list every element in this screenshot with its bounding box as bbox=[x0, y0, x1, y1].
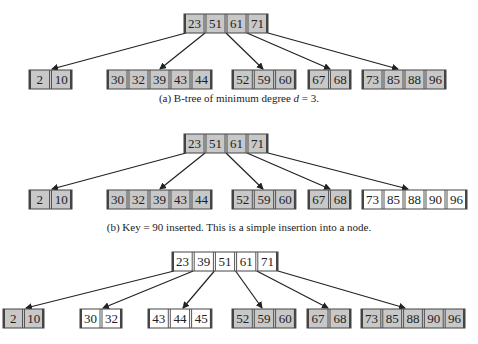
node-key: 44 bbox=[195, 192, 209, 207]
node-key: 88 bbox=[407, 311, 420, 326]
child-pointer-arrow bbox=[226, 153, 263, 189]
node-key: 60 bbox=[279, 192, 292, 207]
node-key: 85 bbox=[386, 311, 399, 326]
node-key: 10 bbox=[55, 72, 68, 87]
leaf-node-b-3: 6768 bbox=[308, 190, 351, 209]
leaf-node-c-1: 3032 bbox=[80, 309, 122, 328]
node-key: 61 bbox=[230, 16, 243, 31]
node-key: 68 bbox=[334, 311, 347, 326]
node-key: 71 bbox=[251, 16, 264, 31]
node-key: 23 bbox=[188, 16, 201, 31]
node-key: 2 bbox=[37, 192, 44, 207]
node-key: 59 bbox=[257, 311, 270, 326]
btree-diagram-canvas: 235161712103032394344525960676873858896 … bbox=[0, 0, 478, 344]
node-key: 61 bbox=[240, 254, 253, 269]
leaf-node-a-2: 525960 bbox=[232, 70, 296, 89]
leaf-node-b-2: 525960 bbox=[232, 190, 296, 209]
node-key: 51 bbox=[219, 254, 232, 269]
leaf-node-b-1: 3032394344 bbox=[107, 190, 212, 209]
child-pointer-arrow bbox=[278, 271, 405, 308]
node-key: 32 bbox=[132, 192, 145, 207]
caption-a-text-2: = 3. bbox=[299, 92, 319, 104]
node-key: 2 bbox=[10, 311, 17, 326]
node-key: 39 bbox=[197, 254, 210, 269]
btree-diagram-c: 2339516171210303243444552596067687385889… bbox=[3, 252, 465, 328]
node-key: 59 bbox=[257, 192, 270, 207]
node-key: 30 bbox=[111, 72, 124, 87]
node-key: 71 bbox=[251, 136, 264, 151]
caption-b: (b) Key = 90 inserted. This is a simple … bbox=[0, 221, 478, 233]
leaf-node-a-0: 210 bbox=[29, 70, 72, 89]
node-key: 52 bbox=[236, 311, 249, 326]
root-node-b: 23516171 bbox=[184, 134, 268, 153]
node-key: 44 bbox=[195, 72, 209, 87]
child-pointer-arrow bbox=[183, 271, 214, 308]
node-key: 73 bbox=[366, 72, 379, 87]
leaf-node-b-4: 7385889096 bbox=[362, 190, 467, 209]
root-node-c: 2339516171 bbox=[172, 252, 278, 271]
node-key: 10 bbox=[55, 192, 68, 207]
node-key: 23 bbox=[188, 136, 201, 151]
leaf-node-b-0: 210 bbox=[29, 190, 72, 209]
leaf-node-a-1: 3032394344 bbox=[107, 70, 212, 89]
child-pointer-arrow bbox=[103, 271, 193, 308]
leaf-node-a-4: 73858896 bbox=[362, 70, 446, 89]
caption-b-text: (b) Key = 90 inserted. This is a simple … bbox=[107, 221, 371, 233]
node-key: 2 bbox=[37, 72, 44, 87]
node-key: 85 bbox=[387, 192, 400, 207]
node-key: 96 bbox=[450, 192, 464, 207]
node-key: 51 bbox=[209, 16, 222, 31]
node-key: 39 bbox=[153, 192, 166, 207]
node-key: 59 bbox=[257, 72, 270, 87]
node-key: 61 bbox=[230, 136, 243, 151]
node-key: 45 bbox=[195, 311, 208, 326]
node-key: 32 bbox=[132, 72, 145, 87]
btree-diagram-b: 2351617121030323943445259606768738588909… bbox=[29, 134, 467, 209]
node-key: 90 bbox=[429, 192, 442, 207]
child-pointer-arrow bbox=[26, 271, 174, 308]
child-pointer-arrow bbox=[236, 271, 262, 308]
child-pointer-arrow bbox=[226, 33, 263, 69]
node-key: 96 bbox=[448, 311, 462, 326]
node-key: 68 bbox=[334, 192, 347, 207]
node-key: 52 bbox=[236, 192, 249, 207]
leaf-node-a-3: 6768 bbox=[308, 70, 351, 89]
node-key: 90 bbox=[427, 311, 440, 326]
node-key: 60 bbox=[279, 72, 292, 87]
node-key: 73 bbox=[366, 192, 379, 207]
node-key: 67 bbox=[312, 311, 326, 326]
leaf-node-c-4: 6768 bbox=[307, 309, 351, 328]
node-key: 43 bbox=[174, 72, 187, 87]
caption-a-text-1: (a) B-tree of minimum degree bbox=[159, 92, 294, 104]
node-key: 39 bbox=[153, 72, 166, 87]
leaf-node-c-5: 7385889096 bbox=[361, 309, 465, 328]
node-key: 71 bbox=[261, 254, 274, 269]
leaf-node-c-2: 434445 bbox=[148, 309, 212, 328]
node-key: 32 bbox=[105, 311, 118, 326]
caption-a: (a) B-tree of minimum degree d = 3. bbox=[0, 92, 478, 104]
node-key: 43 bbox=[152, 311, 165, 326]
node-key: 30 bbox=[111, 192, 124, 207]
root-node-a: 23516171 bbox=[184, 14, 268, 33]
leaf-node-c-3: 525960 bbox=[232, 309, 296, 328]
node-key: 96 bbox=[429, 72, 443, 87]
node-key: 44 bbox=[173, 311, 187, 326]
node-key: 30 bbox=[84, 311, 97, 326]
node-key: 73 bbox=[365, 311, 378, 326]
node-key: 10 bbox=[27, 311, 40, 326]
node-key: 43 bbox=[174, 192, 187, 207]
node-key: 85 bbox=[387, 72, 400, 87]
child-pointer-arrow bbox=[257, 271, 328, 308]
node-key: 67 bbox=[312, 72, 326, 87]
node-key: 52 bbox=[236, 72, 249, 87]
node-key: 88 bbox=[408, 192, 421, 207]
node-key: 51 bbox=[209, 136, 222, 151]
node-key: 60 bbox=[279, 311, 292, 326]
node-key: 68 bbox=[334, 72, 347, 87]
leaf-node-c-0: 210 bbox=[3, 309, 44, 328]
btree-diagram-a: 235161712103032394344525960676873858896 bbox=[29, 14, 446, 89]
node-key: 67 bbox=[312, 192, 326, 207]
node-key: 88 bbox=[408, 72, 421, 87]
node-key: 23 bbox=[176, 254, 189, 269]
